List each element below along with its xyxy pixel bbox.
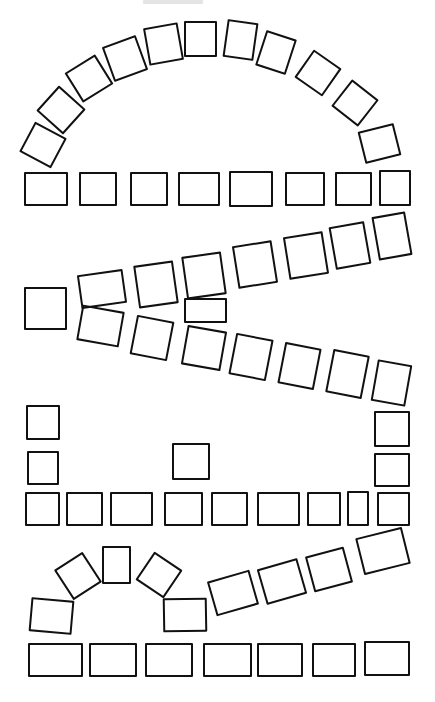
board-cell	[347, 491, 369, 526]
board-cell	[257, 492, 300, 526]
board-cell	[374, 453, 410, 487]
faint-header-mark	[143, 0, 203, 4]
board-cell	[25, 492, 60, 526]
board-cell	[24, 287, 67, 330]
board-cell	[257, 643, 303, 677]
board-cell	[307, 492, 341, 526]
board-cell	[164, 492, 203, 526]
board-cell	[133, 260, 179, 308]
board-cell	[110, 492, 153, 526]
board-cell	[357, 123, 401, 164]
board-cell	[102, 546, 131, 584]
board-cell	[211, 492, 248, 526]
board-cell	[379, 170, 411, 206]
board-cell	[257, 557, 308, 604]
board-cell	[79, 172, 117, 206]
board-cell	[207, 570, 259, 617]
board-cell	[28, 643, 83, 677]
board-cell	[76, 305, 125, 348]
board-cell	[377, 492, 410, 526]
board-cell	[89, 643, 137, 677]
board-cell	[229, 171, 273, 207]
game-board-diagram	[0, 0, 435, 702]
board-cell	[364, 641, 410, 676]
board-cell	[178, 172, 220, 206]
board-cell	[28, 597, 74, 635]
board-cell	[331, 79, 379, 127]
board-cell	[277, 342, 321, 390]
board-cell	[305, 546, 353, 592]
board-cell	[27, 451, 59, 485]
board-cell	[130, 172, 168, 206]
board-cell	[222, 19, 258, 61]
board-cell	[355, 527, 411, 575]
board-cell	[145, 643, 193, 677]
board-cell	[325, 349, 370, 399]
board-cell	[77, 269, 127, 309]
board-cell	[26, 405, 60, 440]
board-cell	[163, 598, 208, 633]
board-cell	[54, 552, 102, 601]
board-cell	[294, 49, 341, 96]
board-cell	[232, 240, 278, 289]
board-cell	[135, 551, 182, 598]
board-cell	[374, 411, 410, 447]
board-cell	[370, 359, 412, 406]
board-cell	[335, 172, 372, 206]
board-cell	[184, 21, 217, 57]
board-cell	[24, 172, 68, 206]
board-cell	[228, 333, 273, 381]
board-cell	[66, 492, 103, 526]
board-cell	[184, 298, 227, 323]
board-cell	[329, 221, 372, 270]
board-cell	[285, 172, 325, 206]
board-cell	[203, 643, 252, 677]
board-cell	[172, 443, 210, 480]
board-cell	[181, 325, 227, 371]
board-cell	[371, 211, 412, 260]
board-cell	[130, 315, 175, 362]
board-cell	[102, 34, 148, 81]
board-cell	[283, 231, 329, 280]
board-cell	[255, 29, 297, 74]
board-cell	[142, 22, 183, 66]
board-cell	[181, 251, 227, 299]
board-cell	[312, 643, 356, 677]
